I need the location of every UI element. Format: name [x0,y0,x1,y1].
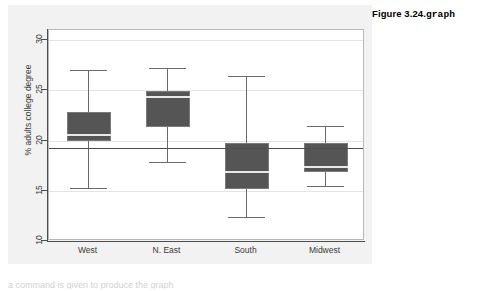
x-tick-label-midwest: Midwest [309,245,340,255]
y-tick-label: 15 [34,185,44,194]
whisker-cap [307,126,345,127]
median-line [225,171,269,173]
x-tick-label-n-east: N. East [153,245,181,255]
x-tick-label-west: West [78,245,97,255]
whisker-cap [228,76,266,77]
y-axis-title: % adults college degree [23,10,33,210]
box-rect [225,143,269,189]
y-tick-label: 20 [34,135,44,144]
graph-region: % adults college degree 1015202530 WestN… [8,5,372,264]
y-tick-label: 25 [34,85,44,94]
figure-caption-prefix: Figure 3.24. [372,8,426,19]
whisker-cap [70,70,108,71]
whisker-cap [149,68,187,69]
plot-area [48,29,364,240]
gridline [49,90,363,91]
box-rect [67,112,111,141]
x-tick-label-south: South [234,245,256,255]
median-line [146,96,190,98]
median-line [67,134,111,136]
y-tick-label: 10 [34,235,44,244]
whisker-cap [228,217,266,218]
bottom-note: a command is given to produce the graph [8,280,408,289]
whisker-cap [70,188,108,189]
figure-caption-command: graph [426,9,455,20]
median-line [304,166,348,168]
y-tick-label: 30 [34,34,44,43]
whisker-cap [149,162,187,163]
x-axis-line [47,241,365,242]
reference-line-rule [49,148,363,149]
gridline [49,40,363,41]
whisker-cap [307,186,345,187]
figure-caption: Figure 3.24.graph [372,8,455,20]
gridline [49,191,363,192]
